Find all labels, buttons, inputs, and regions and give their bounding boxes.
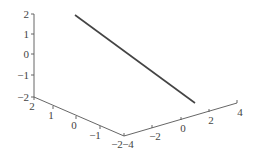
z-tick-label: 1 [24, 28, 30, 40]
y-tick-label: 1 [48, 109, 54, 121]
x-axis: −4 −2 0 2 4 [122, 100, 243, 150]
z-axis: 2 1 0 −1 −2 [17, 8, 34, 103]
3d-line-plot: 2 1 0 −1 −2 2 1 0 −1 −2 −4 −2 0 2 4 [0, 0, 255, 152]
z-tick-label: −2 [17, 91, 29, 103]
y-tick-label: 2 [29, 100, 35, 112]
x-tick-label: 2 [208, 114, 214, 126]
data-line [75, 15, 195, 103]
y-axis: 2 1 0 −1 −2 [29, 97, 124, 150]
z-tick-label: 0 [24, 48, 30, 60]
x-tick-label: 0 [180, 122, 186, 134]
z-tick-label: 2 [24, 8, 30, 20]
x-tick-label: −4 [122, 138, 134, 150]
x-tick-label: −2 [149, 130, 161, 142]
x-tick-label: 4 [237, 106, 243, 118]
z-tick-label: −1 [17, 69, 29, 81]
y-tick-label: 0 [71, 119, 77, 131]
y-tick-label: −2 [111, 138, 123, 150]
y-tick-label: −1 [89, 129, 101, 141]
